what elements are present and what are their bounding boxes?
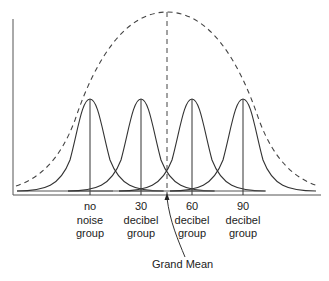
group-label-90-decibel: 90 decibel group <box>218 200 268 241</box>
group-label-30-decibel: 30 decibel group <box>116 200 166 241</box>
arrow-head-icon <box>165 193 170 200</box>
group-label-no-noise: no noise group <box>65 200 115 241</box>
group-label-60-decibel: 60 decibel group <box>167 200 217 241</box>
grand-mean-label: Grand Mean <box>152 258 213 270</box>
